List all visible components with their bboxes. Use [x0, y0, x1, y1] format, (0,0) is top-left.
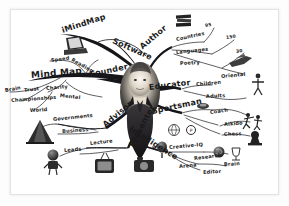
- trophy-icon[interactable]: [232, 148, 240, 160]
- robot-icon[interactable]: [44, 150, 62, 176]
- value-poetry: 30: [236, 48, 243, 54]
- sub-label-world[interactable]: World: [30, 106, 48, 113]
- camera-icon[interactable]: [134, 157, 154, 172]
- pyramid-icon[interactable]: [26, 120, 54, 144]
- sub-label-editor[interactable]: Editor: [203, 168, 222, 175]
- books-icon[interactable]: [176, 14, 191, 26]
- person-icon[interactable]: [252, 74, 264, 95]
- aircraft-icon[interactable]: [229, 54, 252, 67]
- sub-label-poetry[interactable]: Poetry: [180, 59, 200, 66]
- svg-text:P: P: [190, 128, 193, 133]
- sub-label-brain-right[interactable]: Brain: [224, 160, 240, 167]
- chess-icon[interactable]: [248, 131, 262, 145]
- mindmap-canvas: P: [0, 0, 289, 206]
- sub-label-chess[interactable]: Chess: [224, 130, 242, 137]
- medal-icon[interactable]: P: [187, 126, 196, 135]
- globe-icon[interactable]: [169, 125, 180, 136]
- mindmap-branches: P: [0, 0, 289, 206]
- sub-label-adults[interactable]: Adults: [206, 92, 226, 99]
- tv-icon[interactable]: [95, 153, 114, 173]
